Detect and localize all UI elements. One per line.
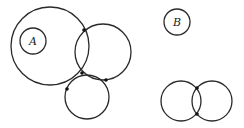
large-circle: [11, 7, 89, 85]
left-figure: A: [11, 7, 131, 119]
intersection-dot: [195, 112, 199, 116]
label-b: B: [172, 16, 181, 29]
upper-right-circle: [75, 24, 131, 80]
bottom-circle: [65, 75, 109, 119]
intersection-dot: [195, 86, 199, 90]
label-a: A: [28, 35, 37, 48]
right-figure: B: [161, 9, 232, 121]
intersection-dot: [104, 78, 108, 82]
circle-diagram: A B: [0, 0, 244, 128]
pair-left-circle: [161, 81, 201, 121]
intersection-dot: [80, 71, 84, 75]
intersection-dot: [82, 28, 86, 32]
intersection-dot: [65, 87, 69, 91]
